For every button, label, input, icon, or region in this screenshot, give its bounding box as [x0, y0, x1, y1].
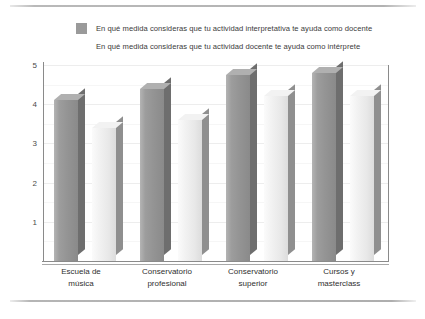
- x-axis-category-label: Cursos ymasterclass: [296, 266, 382, 289]
- bar-front-face: [350, 96, 374, 261]
- bar-group: [216, 65, 302, 261]
- bar-group: [302, 65, 388, 261]
- x-axis-category-label-line: Escuela de: [38, 266, 124, 278]
- legend-item-label: En qué medida consideras que tu activida…: [96, 23, 372, 34]
- bar-side-face: [336, 61, 343, 255]
- y-axis-tick-label: 3: [33, 139, 37, 148]
- bar-series-2[interactable]: [92, 128, 116, 261]
- bar-series-2[interactable]: [178, 120, 202, 261]
- y-axis-tick-label: 2: [33, 178, 37, 187]
- bar-side-face: [78, 88, 85, 255]
- chart-page: En qué medida consideras que tu activida…: [0, 0, 425, 319]
- bar-front-face: [92, 128, 116, 261]
- x-axis-category-label-line: música: [38, 278, 124, 290]
- bar-front-face: [54, 100, 78, 261]
- bar-series-2[interactable]: [350, 96, 374, 261]
- bar-front-face: [226, 75, 250, 261]
- y-axis-tick-label: 4: [33, 100, 37, 109]
- chart-legend: En qué medida consideras que tu activida…: [76, 20, 406, 56]
- legend-swatch-series-2: [76, 41, 87, 52]
- x-axis-category-label-line: Conservatorio: [210, 266, 296, 278]
- x-axis-line: [42, 261, 389, 262]
- legend-swatch-series-1: [76, 23, 87, 34]
- bar-front-face: [312, 73, 336, 261]
- bar-side-face: [164, 77, 171, 255]
- bar-front-face: [140, 89, 164, 261]
- bar-series-1[interactable]: [54, 100, 78, 261]
- bar-group: [130, 65, 216, 261]
- x-axis-category-label: Conservatorioprofesional: [124, 266, 210, 289]
- y-axis-tick-label: 5: [33, 61, 37, 70]
- bar-group: [44, 65, 130, 261]
- bar-series-1[interactable]: [226, 75, 250, 261]
- x-axis-category-label: Escuela demúsica: [38, 266, 124, 289]
- bar-side-face: [374, 85, 381, 255]
- bar-side-face: [116, 116, 123, 255]
- x-axis-category-labels: Escuela demúsicaConservatorioprofesional…: [44, 266, 388, 302]
- x-axis-category-label-line: masterclass: [296, 278, 382, 290]
- bar-front-face: [178, 120, 202, 261]
- x-axis-line-secondary: [42, 264, 389, 265]
- bar-front-face: [264, 96, 288, 261]
- bar-series-1[interactable]: [312, 73, 336, 261]
- legend-item-label: En qué medida consideras que tu activida…: [96, 41, 360, 52]
- bar-chart-plot-area: 12345: [44, 65, 388, 261]
- x-axis-category-label: Conservatoriosuperior: [210, 266, 296, 289]
- x-axis-category-label-line: superior: [210, 278, 296, 290]
- bar-side-face: [288, 85, 295, 255]
- x-axis-category-label-line: profesional: [124, 278, 210, 290]
- bar-side-face: [202, 108, 209, 255]
- bar-series-2[interactable]: [264, 96, 288, 261]
- legend-item[interactable]: En qué medida consideras que tu activida…: [76, 38, 406, 54]
- bar-side-face: [250, 63, 257, 255]
- bar-series-1[interactable]: [140, 89, 164, 261]
- page-rule-top: [10, 5, 416, 7]
- y-axis-tick-label: 1: [33, 217, 37, 226]
- x-axis-category-label-line: Cursos y: [296, 266, 382, 278]
- x-axis-category-label-line: Conservatorio: [124, 266, 210, 278]
- legend-item[interactable]: En qué medida consideras que tu activida…: [76, 20, 406, 36]
